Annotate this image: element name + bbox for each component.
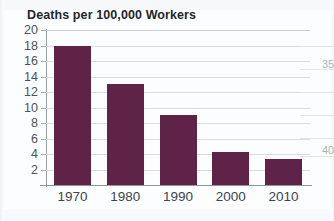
y-tick-label-12: 12 [12, 86, 38, 99]
y-tick-mark-10 [41, 108, 46, 109]
chart-scan-page: Deaths per 100,000 Workers 2468101214161… [0, 0, 334, 221]
y-tick-mark-6 [41, 139, 46, 140]
edge-rule-6 [300, 156, 334, 157]
bar-2010 [265, 159, 302, 185]
edge-rule-4 [300, 115, 334, 116]
edge-rule-3 [300, 92, 334, 93]
y-tick-label-20: 20 [12, 24, 38, 37]
y-tick-label-2: 2 [12, 164, 38, 177]
y-tick-mark-20 [41, 30, 46, 31]
x-tick-label-2000: 2000 [204, 190, 257, 204]
y-tick-label-6: 6 [12, 133, 38, 146]
y-tick-label-10: 10 [12, 102, 38, 115]
y-tick-label-16: 16 [12, 55, 38, 68]
y-tick-mark-8 [41, 123, 46, 124]
adjacent-chart-fragment-40: 40 [322, 145, 334, 156]
scan-paper-bottom-band [0, 209, 334, 221]
y-tick-mark-12 [41, 92, 46, 93]
y-tick-label-8: 8 [12, 117, 38, 130]
y-tick-mark-18 [41, 46, 46, 47]
x-axis-line [40, 185, 312, 186]
bar-1980 [107, 84, 144, 185]
x-tick-label-1980: 1980 [99, 190, 152, 204]
y-tick-label-4: 4 [12, 148, 38, 161]
y-tick-mark-4 [41, 154, 46, 155]
y-tick-mark-16 [41, 61, 46, 62]
y-tick-mark-14 [41, 77, 46, 78]
x-tick-label-1990: 1990 [152, 190, 205, 204]
gridline-20 [46, 30, 310, 31]
edge-rule-5 [300, 138, 334, 139]
x-tick-label-2010: 2010 [257, 190, 310, 204]
adjacent-chart-fragment-35: 35 [322, 59, 334, 70]
chart-title: Deaths per 100,000 Workers [27, 8, 196, 22]
edge-rule-1 [300, 46, 334, 47]
bar-1970 [54, 46, 91, 186]
x-tick-label-1970: 1970 [46, 190, 99, 204]
scan-paper-left-edge [0, 0, 4, 221]
y-tick-label-18: 18 [12, 40, 38, 53]
y-tick-label-14: 14 [12, 71, 38, 84]
y-tick-mark-2 [41, 170, 46, 171]
plot-area [46, 30, 310, 185]
bar-2000 [212, 152, 249, 185]
bar-1990 [160, 115, 197, 185]
